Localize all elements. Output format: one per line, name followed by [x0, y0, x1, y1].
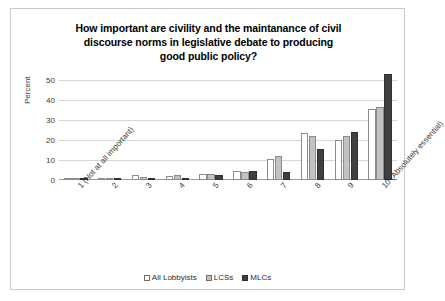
legend-swatch-icon: [206, 275, 212, 281]
bar-group: [267, 80, 290, 180]
bar: [182, 178, 189, 180]
bar: [241, 172, 248, 180]
bar-group: [64, 80, 87, 180]
bar: [267, 159, 274, 180]
bar: [283, 172, 290, 180]
bar: [233, 171, 240, 180]
legend-swatch-icon: [242, 275, 248, 281]
bar-group: [301, 80, 324, 180]
bar: [301, 133, 308, 180]
bar: [335, 140, 342, 180]
bar: [317, 149, 324, 180]
bar: [132, 175, 139, 180]
y-axis-title: Percent: [23, 76, 32, 104]
y-axis-tick-label: 40: [46, 96, 55, 105]
chart-title-line-3: good public policy?: [41, 49, 376, 63]
bar: [249, 171, 256, 180]
x-axis-tick-label: 8: [313, 181, 323, 190]
legend-item: LCSs: [206, 273, 234, 282]
bar: [207, 174, 214, 180]
bar: [199, 174, 206, 180]
x-axis-tick-label: 9: [346, 181, 356, 190]
bar: [64, 178, 71, 180]
bar-group: [199, 80, 222, 180]
y-axis-tick-label: 30: [46, 116, 55, 125]
legend-label: LCSs: [214, 273, 234, 282]
bar: [114, 178, 121, 180]
bar: [98, 178, 105, 180]
legend-label: MLCs: [250, 273, 271, 282]
x-axis-tick-label: 3: [144, 181, 154, 190]
legend-swatch-icon: [144, 275, 150, 281]
bar: [376, 107, 383, 180]
chart-title-line-1: How important are civility and the maint…: [41, 21, 376, 35]
x-axis-tick-label: 7: [279, 181, 289, 190]
bar-series-container: [59, 80, 397, 180]
bar: [384, 74, 391, 180]
bar: [215, 175, 222, 180]
x-axis-tick-label: 2: [110, 181, 120, 190]
legend-item: All Lobbyists: [144, 273, 197, 282]
bar: [309, 136, 316, 180]
bar: [351, 132, 358, 180]
y-axis-tick-label: 20: [46, 136, 55, 145]
legend-item: MLCs: [242, 273, 271, 282]
bar: [368, 109, 375, 180]
bar-group: [335, 80, 358, 180]
bar: [343, 136, 350, 180]
bar: [174, 175, 181, 180]
bar-group: [233, 80, 256, 180]
bar-group: [166, 80, 189, 180]
bar: [148, 178, 155, 180]
chart-frame: How important are civility and the maint…: [10, 8, 405, 290]
plot-area: [59, 80, 397, 180]
x-axis-tick-label: 4: [177, 181, 187, 190]
bar: [140, 177, 147, 180]
y-axis-tick-label: 0: [51, 176, 55, 185]
bar: [275, 156, 282, 180]
x-axis-tick-label: 6: [245, 181, 255, 190]
y-axis-tick-label: 50: [46, 76, 55, 85]
x-axis-tick-labels: 1 (Not at all important)2345678910 (Abso…: [59, 182, 397, 277]
bar-group: [368, 80, 391, 180]
y-axis-tick-labels: 01020304050: [37, 80, 55, 180]
legend-label: All Lobbyists: [152, 273, 197, 282]
chart-legend: All LobbyistsLCSsMLCs: [11, 273, 404, 282]
x-axis-tick-label: 5: [211, 181, 221, 190]
chart-title: How important are civility and the maint…: [41, 21, 376, 63]
y-axis-tick-label: 10: [46, 156, 55, 165]
bar: [166, 176, 173, 180]
chart-title-line-2: discourse norms in legislative debate to…: [41, 35, 376, 49]
